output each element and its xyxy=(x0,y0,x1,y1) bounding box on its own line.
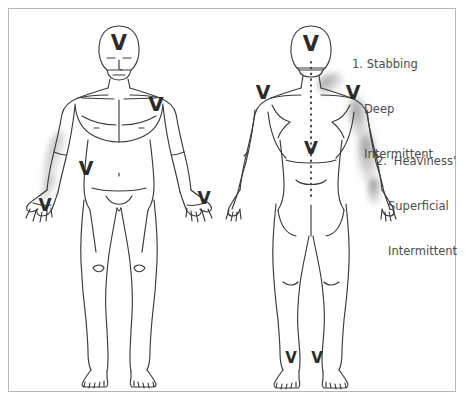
v-marker-back-right-shoulder: V xyxy=(256,81,271,103)
v-marker-back-right-heel: V xyxy=(285,349,297,367)
back-knee-crease-left xyxy=(324,282,339,285)
back-shoulder-line-right xyxy=(271,95,301,98)
front-foot-right xyxy=(82,370,108,388)
front-crotch xyxy=(117,208,121,211)
front-groin xyxy=(106,196,132,204)
annotation-2-line-2: Superficial xyxy=(376,199,457,214)
v-marker-front-abdomen: V xyxy=(79,157,94,179)
front-pec-left xyxy=(122,116,156,125)
front-hip-right xyxy=(90,210,96,252)
annotation-2-line-1: 2. 'Heaviness' xyxy=(376,154,457,169)
back-leg-right-outer xyxy=(273,204,283,370)
front-leg-inner-left xyxy=(121,208,132,371)
front-leg-right-outer xyxy=(81,200,91,370)
anterior-body-figure xyxy=(26,26,212,388)
front-foot-left xyxy=(130,370,156,388)
back-leg-inner-right xyxy=(298,236,309,371)
v-marker-front-left-hand: V xyxy=(197,188,211,208)
back-arm-right-inner xyxy=(238,110,255,192)
v-marker-front-forehead: V xyxy=(111,31,128,55)
front-nose xyxy=(119,60,122,70)
front-knee-left xyxy=(134,265,145,272)
front-leg-left-outer xyxy=(147,200,157,370)
v-marker-back-left-heel: V xyxy=(311,349,323,367)
front-elbow-left xyxy=(172,152,184,155)
annotation-2-line-3: Intermittent xyxy=(376,244,457,259)
annotation-1-line-1: 1. Stabbing xyxy=(352,57,433,72)
pain-body-chart: V V V V V V V V V V V 1. Stabbing Deep I… xyxy=(0,0,468,402)
back-glute-left xyxy=(326,210,344,236)
back-scapula-left xyxy=(332,105,350,138)
front-knee-right xyxy=(93,265,104,272)
front-pec-right xyxy=(82,116,116,125)
back-leg-left-outer xyxy=(339,204,349,370)
back-hand-right xyxy=(226,190,241,221)
v-marker-front-left-shoulder: V xyxy=(148,92,164,116)
back-waist-right xyxy=(278,140,284,210)
v-marker-front-right-hand: V xyxy=(38,195,52,215)
front-arm-left-inner xyxy=(163,106,180,192)
v-marker-back-midback: V xyxy=(304,137,318,158)
back-glute-right xyxy=(278,210,296,236)
annotation-1-line-2: Deep xyxy=(352,102,433,117)
front-waist-line xyxy=(92,188,146,191)
back-foot-left xyxy=(322,370,348,389)
back-knee-crease-right xyxy=(283,282,298,285)
pain-marker-group: V V V V V V V V V V V xyxy=(38,31,360,367)
v-marker-back-occiput: V xyxy=(303,32,320,56)
pain-annotation-2: 2. 'Heaviness' Superficial Intermittent xyxy=(376,124,457,289)
back-scapula-right xyxy=(272,105,290,138)
back-waist-left xyxy=(338,140,344,210)
front-clavicle-right xyxy=(82,98,114,99)
back-foot-right xyxy=(274,370,300,389)
front-hip-left xyxy=(142,210,148,252)
front-leg-inner-right xyxy=(106,208,117,371)
